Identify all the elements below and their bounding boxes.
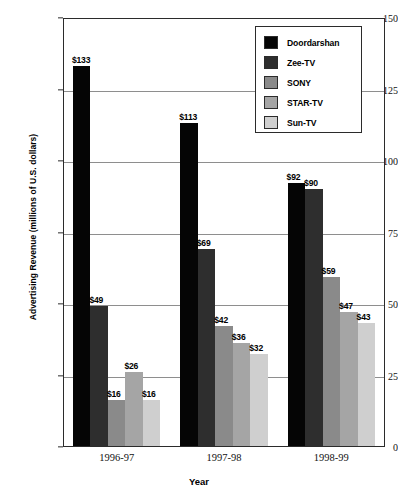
x-axis-title: Year — [0, 476, 398, 487]
legend-label: Doordarshan — [287, 38, 339, 48]
bar-value-label: $113 — [179, 112, 197, 122]
y-axis-title: Advertising Revenue (millions of U.S. do… — [28, 102, 38, 352]
bar-value-label: $90 — [304, 178, 318, 188]
legend-item[interactable]: SONY — [264, 73, 361, 92]
legend-swatch-icon — [264, 76, 278, 89]
bar-value-label: $36 — [232, 332, 246, 342]
bar-value-label: $49 — [89, 295, 103, 305]
legend-label: SONY — [287, 78, 311, 88]
legend-item[interactable]: STAR-TV — [264, 93, 361, 112]
bar-value-label: $43 — [357, 312, 371, 322]
bar[interactable]: $42 — [215, 326, 233, 446]
bar-value-label: $47 — [339, 301, 353, 311]
bar-value-label: $69 — [197, 238, 211, 248]
bar[interactable]: $90 — [305, 189, 323, 446]
legend-item[interactable]: Sun-TV — [264, 113, 361, 132]
x-axis-group-label: 1996-97 — [63, 452, 170, 463]
bar[interactable]: $69 — [198, 249, 216, 446]
legend-swatch-icon — [264, 56, 278, 69]
x-axis-group-label: 1997-98 — [170, 452, 277, 463]
bar-chart: Advertising Revenue (millions of U.S. do… — [0, 0, 398, 501]
bar[interactable]: $59 — [323, 277, 341, 446]
bar[interactable]: $16 — [143, 400, 161, 446]
legend-label: Sun-TV — [287, 118, 316, 128]
legend-label: STAR-TV — [287, 98, 323, 108]
chart-legend: DoordarshanZee-TVSONYSTAR-TVSun-TV — [255, 26, 362, 133]
legend-label: Zee-TV — [287, 58, 315, 68]
x-axis-group-label: 1998-99 — [278, 452, 385, 463]
legend-swatch-icon — [264, 36, 278, 49]
bar-value-label: $42 — [214, 315, 228, 325]
bar[interactable]: $36 — [233, 343, 251, 446]
bar[interactable]: $113 — [180, 123, 198, 446]
bar-group: $133$49$16$26$16 — [73, 19, 161, 446]
bar[interactable]: $32 — [250, 354, 268, 446]
bar[interactable]: $47 — [340, 312, 358, 446]
bar-value-label: $32 — [249, 343, 263, 353]
bar[interactable]: $133 — [73, 66, 91, 446]
bar-value-label: $59 — [322, 266, 336, 276]
bar-value-label: $16 — [107, 389, 121, 399]
bar-value-label: $16 — [142, 389, 156, 399]
legend-swatch-icon — [264, 116, 278, 129]
legend-swatch-icon — [264, 96, 278, 109]
bar[interactable]: $16 — [108, 400, 126, 446]
bar[interactable]: $26 — [125, 372, 143, 446]
legend-item[interactable]: Zee-TV — [264, 53, 361, 72]
legend-item[interactable]: Doordarshan — [264, 33, 361, 52]
bar[interactable]: $49 — [90, 306, 108, 446]
bar[interactable]: $92 — [288, 183, 306, 446]
bar[interactable]: $43 — [358, 323, 376, 446]
bar-value-label: $133 — [72, 55, 90, 65]
bar-value-label: $26 — [124, 361, 138, 371]
bar-value-label: $92 — [287, 172, 301, 182]
